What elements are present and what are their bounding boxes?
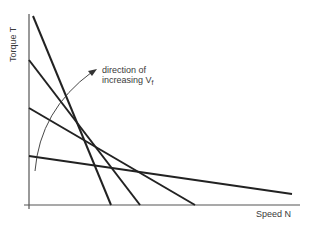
direction-arrow-arc [35, 72, 92, 171]
y-axis-label: Torque T [8, 27, 18, 62]
torque-speed-line-1 [33, 16, 111, 205]
arrow-head-icon [88, 69, 97, 76]
annotation-subscript: f [152, 79, 154, 86]
direction-annotation: direction of increasing Vf [102, 65, 153, 86]
annotation-line-2: increasing Vf [102, 75, 153, 86]
torque-speed-line-4 [29, 156, 292, 194]
annotation-line-1: direction of [102, 65, 153, 75]
diagram-canvas [0, 0, 312, 232]
torque-speed-lines [29, 16, 292, 205]
torque-speed-diagram: Torque T direction of increasing Vf Spee… [0, 0, 312, 232]
x-axis-label: Speed N [256, 209, 291, 219]
annotation-text: increasing V [102, 75, 152, 85]
torque-speed-line-3 [29, 108, 195, 205]
